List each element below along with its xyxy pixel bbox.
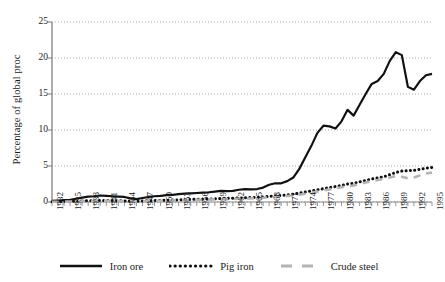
x-tick-label: 1932 [56, 192, 65, 210]
x-tick-label: 1980 [346, 192, 355, 210]
x-tick-label: 1995 [436, 192, 445, 210]
x-tick-label: 1977 [327, 192, 336, 210]
legend-label: Iron ore [110, 261, 144, 272]
x-tick-label: 1971 [291, 192, 300, 210]
legend-swatch-dotted [169, 261, 213, 271]
series-line-iron-ore [52, 52, 432, 201]
x-tick-label: 1974 [309, 192, 318, 210]
legend-swatch-solid [59, 261, 103, 271]
x-tick-label: 1959 [219, 192, 228, 210]
x-tick-label: 1962 [237, 192, 246, 210]
x-tick-label: 1941 [110, 192, 119, 210]
x-tick-label: 1965 [255, 192, 264, 210]
legend-item[interactable]: Iron ore [59, 261, 144, 272]
x-tick-label: 1956 [201, 192, 210, 210]
legend-item[interactable]: Crude steel [280, 261, 379, 272]
chart-legend: Iron orePig ironCrude steel [0, 255, 437, 277]
x-tick-label: 1983 [364, 192, 373, 210]
x-tick-label: 1992 [418, 192, 427, 210]
x-tick-label: 1986 [382, 192, 391, 210]
x-tick-label: 1989 [400, 192, 409, 210]
legend-label: Crude steel [331, 261, 379, 272]
legend-label: Pig iron [220, 261, 254, 272]
legend-item[interactable]: Pig iron [169, 261, 254, 272]
x-tick-label: 1947 [146, 192, 155, 210]
x-tick-label: 1944 [128, 192, 137, 210]
x-tick-label: 1950 [165, 192, 174, 210]
x-tick-label: 1953 [183, 192, 192, 210]
x-tick-label: 1968 [273, 192, 282, 210]
x-tick-label: 1938 [92, 192, 101, 210]
x-tick-label: 1935 [74, 192, 83, 210]
legend-swatch-dashed [280, 261, 324, 271]
